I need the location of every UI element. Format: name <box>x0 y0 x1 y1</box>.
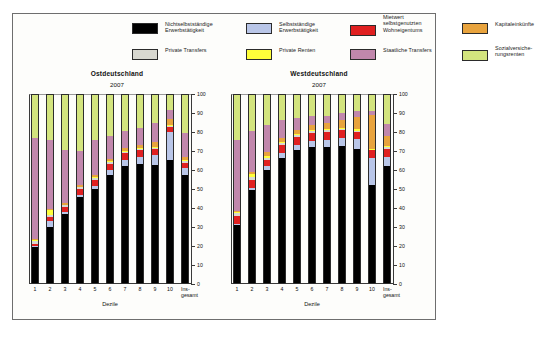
legend-item-private-transfers: Private Transfers <box>132 45 242 67</box>
stacked-bar <box>308 94 316 284</box>
legend-item-nichtselbststaendige-erwerbstaetigkeit: Nichtselbstständige Erwerbstätigkeit <box>132 19 242 41</box>
bar-segment <box>182 175 188 283</box>
y-axis-tick-label: 50 <box>197 187 203 192</box>
bar-segment <box>77 151 83 184</box>
y-axis-tick-label: 0 <box>197 282 200 287</box>
y-axis-tick <box>191 265 195 266</box>
y-axis-tick <box>393 246 397 247</box>
bar-segment <box>384 157 390 166</box>
stacked-bar <box>166 94 174 284</box>
legend-item-mietwert-selbstgenutzten-wohneigentums: Mietwert selbstgenutzten Wohneigentums <box>350 19 458 41</box>
bar-segment <box>62 214 68 283</box>
y-axis-tick-label: 70 <box>197 149 203 154</box>
y-axis-tick <box>191 246 195 247</box>
y-axis-tick <box>191 227 195 228</box>
bar-group-ostdeutschland <box>29 94 191 284</box>
stacked-bar <box>338 94 346 284</box>
legend-swatch-nichtselbststaendige-erwerbstaetigkeit <box>132 23 158 34</box>
bar-segment <box>324 147 330 283</box>
bar-segment <box>122 95 128 131</box>
legend-item-selbststaendige-erwerbstaetigkeit: Selbstständige Erwerbstätigkeit <box>246 19 346 41</box>
bar-segment <box>234 216 240 223</box>
bar-segment <box>324 116 330 124</box>
y-axis-tick-label: 100 <box>399 92 408 97</box>
bar-segment <box>279 145 285 153</box>
bar-segment <box>354 139 360 148</box>
legend-swatch-private-transfers <box>132 49 158 60</box>
y-axis-tick <box>393 227 397 228</box>
y-axis-tick-label: 20 <box>197 244 203 249</box>
stacked-bar <box>151 94 159 284</box>
bar-segment <box>47 140 53 209</box>
y-axis-tick <box>191 132 195 133</box>
stacked-bar <box>76 94 84 284</box>
bar-segment <box>354 132 360 140</box>
bar-segment <box>167 160 173 283</box>
bar-segment <box>249 131 255 172</box>
bar-segment <box>182 133 188 157</box>
bar-segment <box>264 95 270 125</box>
y-axis-tick-label: 80 <box>197 130 203 135</box>
bar-segment <box>77 197 83 283</box>
legend-label-private-transfers: Private Transfers <box>165 45 207 53</box>
y-axis-tick-label: 30 <box>197 225 203 230</box>
bar-segment <box>354 149 360 283</box>
bar-segment <box>384 136 390 146</box>
legend-label-kapitaleinkuenfte: Kapitaleinkünfte <box>495 19 534 27</box>
y-axis-tick-label: 90 <box>399 111 405 116</box>
bar-segment <box>384 124 390 135</box>
y-axis-tick-label: 80 <box>399 130 405 135</box>
y-axis-tick <box>393 151 397 152</box>
bar-segment <box>92 140 98 175</box>
bar-segment <box>249 95 255 131</box>
bar-segment <box>137 164 143 283</box>
legend-item-sozialversicherungsrenten: Sozialversiche- rungsrenten <box>462 45 539 67</box>
bar-segment <box>137 95 143 128</box>
bar-segment <box>122 153 128 160</box>
y-axis-westdeutschland: 0102030405060708090100 <box>393 94 417 284</box>
y-axis-tick-label: 60 <box>197 168 203 173</box>
bar-segment <box>234 95 240 140</box>
bar-segment <box>92 189 98 283</box>
legend-item-private-renten: Private Renten <box>246 45 346 67</box>
y-axis-tick <box>191 284 195 285</box>
stacked-bar <box>383 94 391 284</box>
stacked-bar <box>181 94 189 284</box>
legend-label-selbststaendige-erwerbstaetigkeit: Selbstständige Erwerbstätigkeit <box>279 19 318 34</box>
y-axis-tick-label: 10 <box>399 263 405 268</box>
bar-segment <box>384 166 390 283</box>
bar-segment <box>107 164 113 171</box>
figure-frame: Nichtselbstständige Erwerbstätigkeit Sel… <box>12 13 436 320</box>
x-axis-title-ostdeutschland: Dezile <box>29 301 191 307</box>
y-axis-tick-label: 100 <box>197 92 206 97</box>
bar-segment <box>152 165 158 283</box>
legend-swatch-mietwert-selbstgenutzten-wohneigentums <box>350 25 376 36</box>
bar-segment <box>249 180 255 188</box>
bar-segment <box>249 190 255 283</box>
bar-segment <box>32 95 38 138</box>
bar-segment <box>137 128 143 145</box>
stacked-bar <box>323 94 331 284</box>
bar-segment <box>369 185 375 283</box>
bar-segment <box>279 158 285 283</box>
y-axis-tick-label: 50 <box>399 187 405 192</box>
stacked-bar <box>121 94 129 284</box>
bar-segment <box>122 166 128 283</box>
bar-segment <box>369 150 375 158</box>
stacked-bar <box>263 94 271 284</box>
bar-segment <box>309 147 315 283</box>
bar-segment <box>167 95 173 110</box>
bar-segment <box>92 95 98 140</box>
bar-segment <box>167 119 173 126</box>
stacked-bar <box>106 94 114 284</box>
legend-label-sozialversicherungsrenten: Sozialversiche- rungsrenten <box>495 45 532 58</box>
bar-segment <box>122 131 128 148</box>
stacked-bar <box>293 94 301 284</box>
y-axis-tick-label: 40 <box>197 206 203 211</box>
bar-segment <box>62 150 68 204</box>
bar-segment <box>339 130 345 138</box>
panel-year-westdeutschland: 2007 <box>221 81 417 88</box>
bar-segment <box>309 133 315 141</box>
legend-label-staatliche-transfers: Staatliche Transfers <box>383 45 432 53</box>
y-axis-tick-label: 90 <box>197 111 203 116</box>
